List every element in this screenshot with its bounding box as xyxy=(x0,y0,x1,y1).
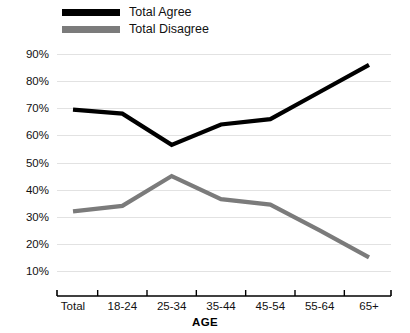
x-tick-label: 18-24 xyxy=(108,300,137,312)
x-tick-label: 55-64 xyxy=(305,300,334,312)
x-tick-label: 65+ xyxy=(359,300,379,312)
x-axis-title: AGE xyxy=(0,316,410,328)
x-tick-label: 45-54 xyxy=(256,300,285,312)
x-tick-label: 25-34 xyxy=(157,300,186,312)
line-chart: Total Agree Total Disagree 10%20%30%40%5… xyxy=(0,0,410,333)
series-layer xyxy=(0,0,410,333)
series-line-total-agree xyxy=(73,65,369,145)
x-tick-label: Total xyxy=(61,300,85,312)
x-tick-label: 35-44 xyxy=(206,300,235,312)
series-line-total-disagree xyxy=(73,176,369,257)
